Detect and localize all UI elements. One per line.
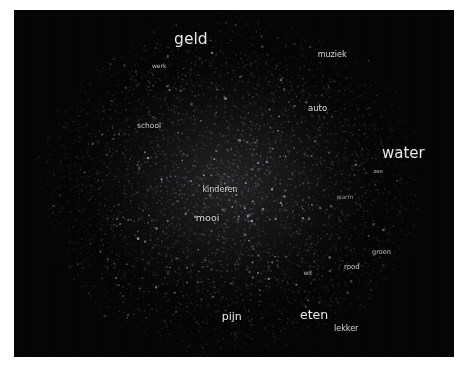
scatter-plot-canvas: geldwerkmuziekautoschoolwaterzeekinderen… — [14, 10, 454, 357]
word-label-groen[interactable]: groen — [372, 249, 391, 256]
word-label-lekker[interactable]: lekker — [334, 325, 358, 333]
word-label-school[interactable]: school — [137, 122, 161, 130]
word-label-wit[interactable]: wit — [303, 270, 312, 276]
word-label-auto[interactable]: auto — [308, 104, 327, 113]
word-label-mooi[interactable]: mooi — [196, 213, 220, 223]
word-label-zee[interactable]: zee — [373, 170, 383, 176]
word-label-werk[interactable]: werk — [152, 63, 167, 69]
word-label-water[interactable]: water — [382, 145, 425, 160]
point-cloud-highlight-layer — [14, 10, 454, 357]
word-label-warm[interactable]: warm — [336, 194, 353, 200]
word-label-geld[interactable]: geld — [174, 32, 208, 48]
word-embedding-figure: geldwerkmuziekautoschoolwaterzeekinderen… — [0, 0, 468, 387]
word-label-muziek[interactable]: muziek — [318, 51, 347, 59]
word-label-kinderen[interactable]: kinderen — [202, 186, 237, 194]
word-label-eten[interactable]: eten — [300, 308, 328, 321]
word-label-pijn[interactable]: pijn — [222, 311, 242, 322]
word-label-rood[interactable]: rood — [344, 263, 360, 270]
